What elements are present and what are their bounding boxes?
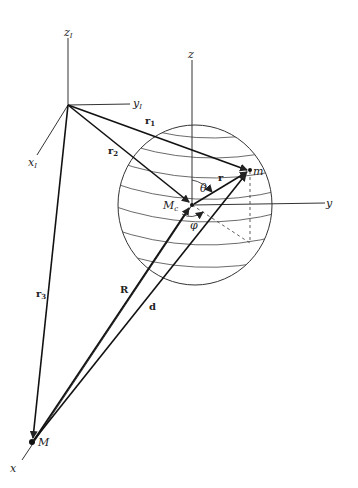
r3-label: r3: [36, 288, 46, 301]
external-mass-point: [29, 439, 35, 445]
x-body-label: x: [10, 462, 17, 475]
diagram-canvas: zI yI xI z y x r1 r2 r3 r R d m M Mc θ φ: [0, 0, 358, 488]
r1-label: r1: [145, 115, 155, 128]
phi-label: φ: [190, 219, 198, 232]
y-body-label: y: [325, 197, 333, 210]
y-inertial-label: yI: [132, 97, 142, 111]
vectors: [33, 105, 247, 440]
small-mass-point: [248, 168, 252, 172]
z-body-label: z: [187, 48, 194, 61]
y-body-axis: [192, 203, 325, 205]
x-body-axis: [22, 205, 192, 460]
z-inertial-label: zI: [63, 26, 73, 40]
external-mass-label: M: [37, 436, 50, 449]
inertial-axes: [37, 38, 130, 155]
r2-label: r2: [108, 145, 118, 158]
center-mass-point: [190, 203, 194, 207]
center-mass-label: Mc: [162, 199, 178, 213]
vector-r2: [68, 105, 189, 202]
x-inertial-label: xI: [28, 156, 37, 170]
r-label: r: [218, 172, 224, 183]
small-mass-label: m: [253, 165, 263, 178]
theta-label: θ: [200, 182, 207, 195]
y-inertial-axis: [68, 104, 130, 105]
body-axes: [22, 60, 325, 460]
vector-r3: [33, 105, 68, 438]
vector-R: [34, 208, 189, 440]
R-label: R: [120, 284, 129, 295]
d-label: d: [149, 301, 156, 312]
